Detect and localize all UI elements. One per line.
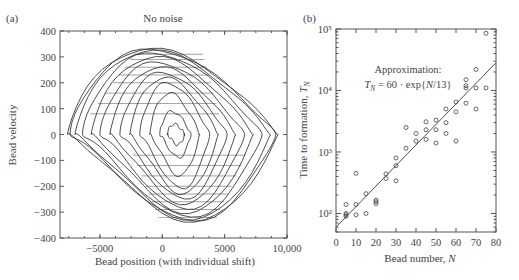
data-point xyxy=(414,131,418,135)
data-point xyxy=(444,107,448,111)
data-point xyxy=(444,131,448,135)
y-tick-label: −300 xyxy=(34,207,56,218)
x-tick-label: −5000 xyxy=(86,243,113,254)
trajectory-loop xyxy=(110,67,236,205)
panel-a-ylabel: Bead velocity xyxy=(6,104,18,165)
data-point xyxy=(464,101,468,105)
data-point xyxy=(404,146,408,150)
x-tick-label: 5000 xyxy=(214,243,235,254)
data-point xyxy=(424,137,428,141)
data-point xyxy=(464,78,468,82)
y-tick-label: 100 xyxy=(40,104,56,115)
approximation-line1: Approximation: xyxy=(374,64,441,75)
trajectory-loop xyxy=(167,123,184,146)
panel-a-label: (a) xyxy=(6,12,19,25)
y-tick-label: 200 xyxy=(40,78,56,89)
x-tick-label: 30 xyxy=(391,237,402,248)
data-point xyxy=(484,31,488,35)
panel-b-xlabel: Bead number, N xyxy=(384,252,456,264)
data-point xyxy=(354,213,358,217)
data-point xyxy=(424,128,428,132)
data-point xyxy=(364,192,368,196)
data-point xyxy=(384,177,388,181)
trajectory-loop xyxy=(130,77,219,195)
y-tick-label: 10⁵ xyxy=(318,24,333,35)
trajectory-loop xyxy=(68,48,279,222)
scatter-plot xyxy=(336,31,496,227)
y-tick-label: 10³ xyxy=(318,147,332,158)
trajectory-loop xyxy=(120,72,227,199)
y-tick-label: −200 xyxy=(34,181,56,192)
y-tick-label: −100 xyxy=(34,155,56,166)
panel-b: (b) 0102030405060708010²10³10⁴10⁵ Approx… xyxy=(297,12,501,264)
data-point xyxy=(414,139,418,143)
data-point xyxy=(434,118,438,122)
x-tick-label: 10,000 xyxy=(273,243,302,254)
data-point xyxy=(434,128,438,132)
x-tick-label: 70 xyxy=(471,237,482,248)
panel-a-title: No noise xyxy=(143,12,183,24)
y-tick-label: 0 xyxy=(51,130,56,141)
data-point xyxy=(474,67,478,71)
y-tick-label: 10² xyxy=(318,208,332,219)
x-tick-label: 80 xyxy=(491,237,502,248)
y-tick-label: −400 xyxy=(34,233,56,244)
x-tick-label: 60 xyxy=(451,237,462,248)
data-point xyxy=(354,171,358,175)
data-point xyxy=(434,141,438,145)
data-point xyxy=(344,203,348,207)
x-tick-label: 0 xyxy=(160,243,165,254)
data-point xyxy=(474,86,478,90)
trajectory-loop xyxy=(100,62,245,210)
x-tick-label: 10 xyxy=(351,237,362,248)
data-point xyxy=(354,203,358,207)
data-point xyxy=(394,179,398,183)
data-point xyxy=(454,139,458,143)
data-point xyxy=(474,107,478,111)
x-tick-label: 20 xyxy=(371,237,382,248)
data-point xyxy=(404,126,408,130)
panel-b-label: (b) xyxy=(303,12,316,25)
data-point xyxy=(454,110,458,114)
panel-a: (a) No noise −50000500010,000−400−300−20… xyxy=(6,12,301,268)
data-point xyxy=(444,121,448,125)
data-point xyxy=(364,211,368,215)
y-tick-label: 300 xyxy=(40,52,56,63)
x-tick-label: 0 xyxy=(333,237,338,248)
panel-b-frame xyxy=(336,29,496,232)
figure: (a) No noise −50000500010,000−400−300−20… xyxy=(0,0,519,280)
trajectory-loop xyxy=(160,111,191,159)
y-tick-label: 10⁴ xyxy=(318,85,333,96)
y-tick-label: 400 xyxy=(40,26,56,37)
x-tick-label: 50 xyxy=(431,237,442,248)
data-point xyxy=(424,120,428,124)
trajectory-loop xyxy=(91,57,253,214)
panel-a-xlabel: Bead position (with individual shift) xyxy=(95,255,255,268)
approximation-formula: TN = 60 · exp{N/13} xyxy=(365,79,452,93)
phase-space-curves xyxy=(68,48,279,222)
x-tick-label: 40 xyxy=(411,237,422,248)
data-point xyxy=(484,86,488,90)
panel-a-ticks: −50000500010,000−400−300−200−10001002003… xyxy=(34,26,301,254)
data-point xyxy=(394,156,398,160)
panel-b-ylabel: Time to formation, TN xyxy=(297,81,312,179)
